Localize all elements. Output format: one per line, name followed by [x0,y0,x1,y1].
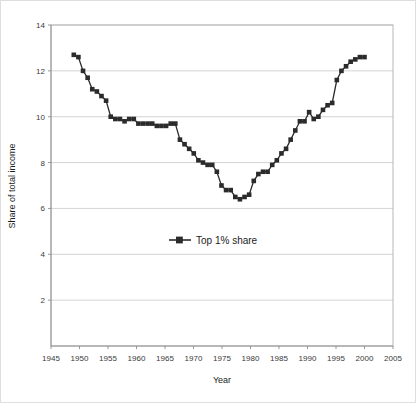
data-point-marker [353,57,358,62]
data-point-marker [178,137,183,142]
data-point-marker [168,121,173,126]
y-tick-label: 14 [36,21,45,30]
data-point-marker [284,147,289,152]
data-point-marker [293,128,298,133]
data-point-marker [210,163,215,168]
data-point-marker [219,183,224,188]
data-point-marker [279,151,284,156]
data-point-marker [339,69,344,74]
data-point-marker [99,94,104,99]
data-point-marker [224,188,229,193]
data-point-marker [90,87,95,92]
x-tick-label: 1975 [213,354,231,363]
y-tick-label: 10 [36,113,45,122]
data-point-marker [182,142,187,147]
data-point-marker [196,158,201,163]
y-tick-label: 4 [41,250,46,259]
data-point-marker [145,121,150,126]
y-tick-label: 12 [36,67,45,76]
data-point-marker [330,101,335,106]
x-tick-labels: 1945195019551960196519701975198019851990… [42,354,402,363]
data-point-marker [215,169,220,174]
data-point-marker [307,110,312,115]
y-tick-label: 2 [41,296,46,305]
data-point-marker [321,108,326,113]
data-point-marker [298,119,303,124]
data-point-marker [141,121,146,126]
data-point-marker [159,124,164,129]
data-point-marker [173,121,178,126]
data-point-marker [150,121,155,126]
series-top-1pct-share [72,53,367,202]
gridlines-group [51,25,393,300]
data-point-marker [72,53,77,58]
chart-figure: 2468101214 19451950195519601965197019751… [0,0,416,403]
data-point-marker [113,117,118,122]
data-point-marker [344,64,349,69]
data-point-marker [335,78,340,83]
data-point-marker [316,114,321,119]
data-point-marker [205,163,210,168]
data-point-marker [358,55,363,60]
data-point-marker [288,137,293,142]
data-point-marker [251,179,256,184]
data-point-marker [76,55,81,60]
data-point-marker [261,169,266,174]
data-point-marker [95,89,100,94]
x-tick-label: 1970 [185,354,203,363]
legend-entry-label: Top 1% share [196,235,258,246]
data-point-marker [256,172,261,177]
data-point-marker [302,119,307,124]
x-tick-label: 2005 [384,354,402,363]
data-point-marker [191,151,196,156]
data-point-marker [164,124,169,129]
data-point-marker [108,114,113,119]
data-point-marker [118,117,123,122]
x-axis-title: Year [213,375,231,385]
data-point-marker [201,160,206,165]
x-tick-label: 1965 [156,354,174,363]
data-point-marker [187,147,192,152]
data-point-marker [270,163,275,168]
x-tick-label: 1980 [242,354,260,363]
data-point-marker [275,158,280,163]
x-tick-label: 1955 [99,354,117,363]
data-point-marker [242,195,247,200]
y-tick-label: 8 [41,159,46,168]
y-axis-title: Share of total income [7,143,17,228]
data-point-marker [265,169,270,174]
data-point-marker [81,69,86,74]
y-tick-labels: 2468101214 [36,21,45,305]
x-tick-label: 1950 [71,354,89,363]
data-point-marker [155,124,160,129]
data-point-marker [131,117,136,122]
data-point-marker [238,197,243,202]
series-line [74,55,365,199]
data-point-marker [362,55,367,60]
data-point-marker [311,117,316,122]
data-point-marker [85,75,90,80]
data-point-marker [228,188,233,193]
data-point-marker [136,121,141,126]
data-point-marker [233,195,238,200]
data-point-marker [104,98,109,103]
chart-legend[interactable]: Top 1% share [169,235,258,246]
x-tick-label: 1985 [270,354,288,363]
x-tick-label: 1990 [299,354,317,363]
data-point-marker [127,117,132,122]
x-tick-label: 1945 [42,354,60,363]
line-chart: 2468101214 19451950195519601965197019751… [1,1,416,403]
x-tick-label: 1995 [327,354,345,363]
x-tick-label: 1960 [128,354,146,363]
x-tick-label: 2000 [356,354,374,363]
data-point-marker [325,103,330,108]
data-point-marker [122,119,127,124]
data-point-marker [247,192,252,197]
data-point-marker [348,59,353,64]
y-tick-label: 6 [41,204,46,213]
